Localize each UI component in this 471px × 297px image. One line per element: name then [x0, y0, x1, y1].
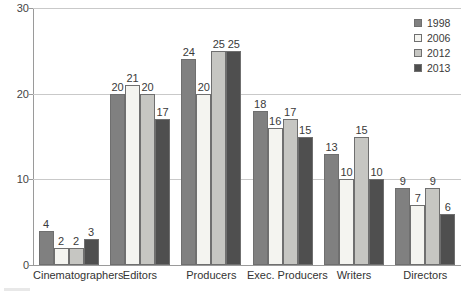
bar: 25	[211, 51, 226, 265]
bar: 6	[440, 214, 455, 265]
bar-value-label: 15	[355, 124, 367, 136]
bar-value-label: 2	[58, 235, 64, 247]
bar-value-label: 24	[183, 46, 195, 58]
bar: 9	[395, 188, 410, 265]
bar: 7	[410, 205, 425, 265]
bar-value-label: 17	[156, 106, 168, 118]
bar-group: 24202525	[181, 8, 241, 265]
bar: 17	[283, 119, 298, 265]
bar: 2	[54, 248, 69, 265]
plot-area: 4223202120172420252518161715131015109796	[33, 8, 461, 265]
bar-value-label: 2	[73, 235, 79, 247]
x-axis-category-label: Directors	[390, 269, 461, 282]
legend-swatch-icon	[414, 19, 422, 27]
bar: 16	[268, 128, 283, 265]
bar: 17	[155, 119, 170, 265]
legend-item-2013[interactable]: 2013	[414, 62, 470, 74]
y-tick-0	[28, 265, 33, 266]
x-axis-category-label: Writers	[318, 269, 389, 282]
bar: 25	[226, 51, 241, 265]
y-axis-label-30: 30	[3, 3, 29, 14]
bar: 2	[69, 248, 84, 265]
bar: 10	[369, 179, 384, 265]
bar-value-label: 15	[299, 124, 311, 136]
bar-value-label: 20	[141, 81, 153, 93]
bar-value-label: 18	[254, 98, 266, 110]
legend-label: 1998	[427, 18, 450, 29]
bar-group: 4223	[39, 8, 99, 265]
legend-label: 2006	[427, 33, 450, 44]
bar: 20	[196, 94, 211, 265]
bar: 13	[324, 154, 339, 265]
bar-value-label: 9	[430, 175, 436, 187]
legend-item-1998[interactable]: 1998	[414, 17, 470, 29]
x-axis-category-label: Editors	[104, 269, 175, 282]
legend-label: 2013	[427, 63, 450, 74]
bar-value-label: 20	[111, 81, 123, 93]
bar: 21	[125, 85, 140, 265]
bar-value-label: 25	[228, 38, 240, 50]
x-axis-line	[33, 265, 461, 266]
legend-swatch-icon	[414, 34, 422, 42]
y-axis-label-20: 20	[3, 89, 29, 100]
chart-legend: 1998200620122013	[414, 17, 470, 77]
bar-value-label: 21	[126, 72, 138, 84]
y-axis-label-0: 0	[3, 260, 29, 271]
y-axis: 0102030	[0, 8, 29, 266]
x-axis-category-label: Producers	[176, 269, 247, 282]
bar: 9	[425, 188, 440, 265]
legend-item-2012[interactable]: 2012	[414, 47, 470, 59]
bar-value-label: 25	[213, 38, 225, 50]
bar-group: 18161715	[253, 8, 313, 265]
bar-value-label: 6	[445, 201, 451, 213]
bar-value-label: 10	[370, 166, 382, 178]
bar-group: 13101510	[324, 8, 384, 265]
bar-value-label: 13	[325, 141, 337, 153]
y-tick-10	[28, 179, 33, 180]
bar-chart: 0102030 42232021201724202525181617151310…	[0, 0, 471, 297]
bar: 20	[110, 94, 125, 265]
bar-value-label: 10	[340, 166, 352, 178]
bar-value-label: 4	[43, 218, 49, 230]
y-axis-label-10: 10	[3, 174, 29, 185]
bar: 15	[354, 137, 369, 266]
legend-label: 2012	[427, 48, 450, 59]
bar-group: 20212017	[110, 8, 170, 265]
bar: 24	[181, 59, 196, 265]
bar-value-label: 20	[198, 81, 210, 93]
bar-value-label: 9	[400, 175, 406, 187]
bar: 18	[253, 111, 268, 265]
bar-value-label: 16	[269, 115, 281, 127]
bar: 20	[140, 94, 155, 265]
bar: 3	[84, 239, 99, 265]
x-axis-category-label: Exec. Producers	[247, 269, 318, 282]
legend-swatch-icon	[414, 64, 422, 72]
bar-value-label: 17	[284, 106, 296, 118]
y-tick-30	[28, 8, 33, 9]
y-tick-20	[28, 94, 33, 95]
bar-value-label: 7	[415, 192, 421, 204]
x-axis-category-label: Cinematographers	[33, 269, 104, 282]
bar: 15	[298, 137, 313, 266]
bar-value-label: 3	[88, 226, 94, 238]
corner-artifact	[4, 288, 30, 291]
bar: 10	[339, 179, 354, 265]
legend-swatch-icon	[414, 49, 422, 57]
bar: 4	[39, 231, 54, 265]
legend-item-2006[interactable]: 2006	[414, 32, 470, 44]
